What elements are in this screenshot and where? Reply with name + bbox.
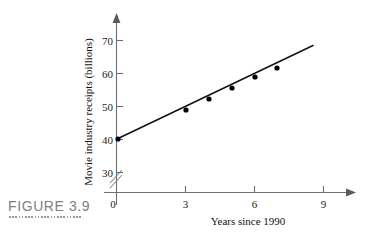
x-tick-label-3: 3 — [183, 198, 189, 210]
y-axis-title: Movie industry receipts (billions) — [82, 38, 95, 186]
data-point — [229, 85, 234, 90]
y-tick-labels: 70 60 50 40 30 — [102, 35, 114, 179]
y-tick-label-70: 70 — [102, 35, 114, 47]
x-axis-title: Years since 1990 — [211, 215, 286, 227]
line-of-best-fit — [117, 46, 313, 140]
data-point — [115, 136, 120, 141]
y-ticks — [117, 41, 124, 173]
x-axis-arrow-icon — [346, 189, 356, 197]
y-axis-arrow-icon — [113, 13, 121, 23]
x-tick-label-9: 9 — [321, 198, 327, 210]
scatter-plot: 70 60 50 40 30 0 3 6 9 Movie industry re… — [0, 0, 372, 240]
x-tick-label-0: 0 — [110, 198, 116, 210]
y-tick-label-60: 60 — [102, 68, 114, 80]
y-tick-label-30: 30 — [102, 167, 114, 179]
data-point — [206, 96, 211, 101]
x-axis — [104, 189, 356, 197]
x-ticks — [186, 186, 324, 193]
data-point — [274, 65, 279, 70]
y-tick-label-40: 40 — [102, 134, 114, 146]
y-tick-label-50: 50 — [102, 101, 114, 113]
data-points — [115, 65, 279, 141]
x-tick-label-6: 6 — [252, 198, 258, 210]
data-point — [183, 107, 188, 112]
figure-container: FIGURE 3.9 70 60 50 40 — [0, 0, 372, 240]
x-tick-labels: 0 3 6 9 — [110, 198, 327, 210]
data-point — [252, 74, 257, 79]
